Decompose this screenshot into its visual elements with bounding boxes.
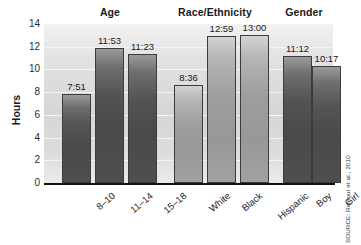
group-title-race-ethnicity: Race/Ethnicity xyxy=(160,6,270,18)
y-tick-label: 10 xyxy=(14,64,40,74)
y-axis-ticks: 02468101214 xyxy=(8,0,40,245)
bar[interactable] xyxy=(62,94,91,183)
gridline xyxy=(44,24,333,25)
y-tick-label: 8 xyxy=(14,87,40,97)
x-tick-label: White xyxy=(207,190,233,214)
y-tick-label: 2 xyxy=(14,155,40,165)
y-tick-label: 0 xyxy=(14,178,40,188)
bar-value-label: 11:23 xyxy=(122,42,163,52)
y-tick-label: 6 xyxy=(14,110,40,120)
bar[interactable] xyxy=(240,35,269,183)
x-tick-label: Hispanic xyxy=(276,190,311,222)
bar-value-label: 11:12 xyxy=(277,44,318,54)
bar[interactable] xyxy=(128,54,157,183)
y-tick-label: 14 xyxy=(14,19,40,29)
x-tick-label: 8–10 xyxy=(94,190,117,212)
bar-value-label: 8:36 xyxy=(168,73,209,83)
x-tick-label: 11–14 xyxy=(128,190,155,215)
bar[interactable] xyxy=(174,85,203,183)
y-tick-label: 12 xyxy=(14,42,40,52)
bar-value-label: 13:00 xyxy=(234,23,275,33)
bar-value-label: 7:51 xyxy=(56,82,97,92)
bar[interactable] xyxy=(95,48,124,183)
group-title-age: Age xyxy=(62,6,158,18)
x-tick-label: Boy xyxy=(314,190,334,209)
bar-value-label: 10:17 xyxy=(306,54,347,64)
bar[interactable] xyxy=(207,36,236,183)
group-title-gender: Gender xyxy=(268,6,340,18)
x-tick-label: Black xyxy=(239,190,264,213)
bar[interactable] xyxy=(283,56,312,183)
bar[interactable] xyxy=(312,66,341,183)
x-tick-label: 15–18 xyxy=(161,190,188,215)
y-tick-label: 4 xyxy=(14,133,40,143)
x-axis-line xyxy=(44,183,335,185)
